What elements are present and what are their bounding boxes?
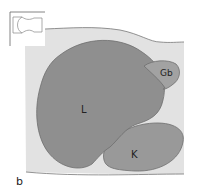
kidney-label: K bbox=[131, 150, 138, 160]
anatomy-diagram bbox=[0, 0, 197, 193]
liver-label: L bbox=[81, 105, 87, 115]
gallbladder-label: Gb bbox=[160, 69, 173, 78]
panel-label: b bbox=[16, 176, 23, 187]
